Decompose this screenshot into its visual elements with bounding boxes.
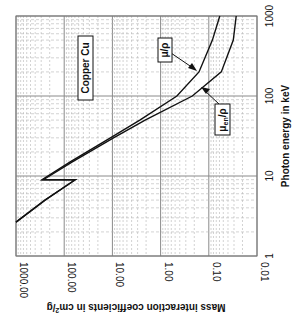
coef-tick-label: 10.00 <box>114 262 125 287</box>
mu-rho-label-text: μ/ρ <box>159 42 170 57</box>
plot-frame <box>16 16 257 256</box>
coef-tick-label: 0.01 <box>259 262 270 282</box>
mu-en-rho-curve <box>16 16 236 222</box>
energy-tick-label: 100 <box>264 87 275 104</box>
mu-en-rho-label: μen/ρ <box>201 87 230 135</box>
arrow-head-icon <box>188 63 197 71</box>
energy-tick-label: 1 <box>264 253 275 259</box>
mu-rho-label: μ/ρ <box>158 38 197 71</box>
material-label-text: Copper Cu <box>80 42 91 93</box>
coefficient-axis-ticks: 1000.00100.0010.001.000.100.01 <box>18 262 270 299</box>
coef-tick-label: 1000.00 <box>18 262 29 299</box>
y-axis-title: Mass interaction coefficients in cm2/g <box>47 302 226 314</box>
mu-rho-curve <box>16 16 220 222</box>
energy-tick-label: 10 <box>264 170 275 182</box>
plot-grid <box>16 16 257 256</box>
energy-tick-label: 1000 <box>264 4 275 27</box>
coef-tick-label: 1.00 <box>163 262 174 282</box>
x-axis-title: Photon energy in keV <box>280 85 291 188</box>
coef-tick-label: 0.10 <box>211 262 222 282</box>
energy-axis-ticks: 1101001000 <box>264 4 275 258</box>
attenuation-chart: Copper Cu μ/ρ μen/ρ 1000.00100.0010.001.… <box>0 0 297 319</box>
material-label: Copper Cu <box>78 36 93 100</box>
coef-tick-label: 100.00 <box>66 262 77 293</box>
